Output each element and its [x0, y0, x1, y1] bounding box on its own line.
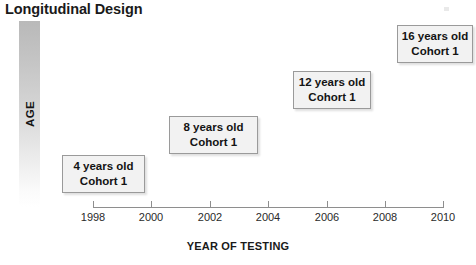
- x-axis-tick: [443, 201, 444, 208]
- page-title: Longitudinal Design: [5, 1, 142, 17]
- x-axis-tick-label: 2002: [198, 211, 222, 223]
- cohort-box-cohort-label: Cohort 1: [80, 174, 127, 188]
- x-axis-tick-label: 2000: [139, 211, 163, 223]
- x-axis-tick-label: 2004: [256, 211, 280, 223]
- x-axis-tick: [151, 201, 152, 208]
- x-axis-tick: [210, 201, 211, 208]
- scan-artifact: [444, 7, 449, 11]
- x-axis-title: YEAR OF TESTING: [0, 240, 476, 252]
- x-axis-tick: [93, 201, 94, 208]
- x-axis-tick-label: 2006: [315, 211, 339, 223]
- x-axis-tick-label: 2010: [431, 211, 455, 223]
- x-axis-tick: [327, 201, 328, 208]
- cohort-box-age-label: 12 years old: [299, 75, 365, 89]
- cohort-box-age-label: 4 years old: [73, 159, 133, 173]
- cohort-box-cohort-label: Cohort 1: [411, 44, 458, 58]
- longitudinal-design-figure: Longitudinal Design AGE 4 years old Coho…: [0, 0, 476, 265]
- x-axis-tick-label: 2008: [373, 211, 397, 223]
- cohort-box-12-years: 12 years old Cohort 1: [293, 71, 371, 109]
- cohort-box-age-label: 8 years old: [183, 120, 243, 134]
- age-axis-label: AGE: [19, 21, 40, 207]
- cohort-box-8-years: 8 years old Cohort 1: [169, 116, 258, 154]
- x-axis-tick: [268, 201, 269, 208]
- age-axis-label-text: AGE: [24, 101, 36, 127]
- cohort-box-4-years: 4 years old Cohort 1: [62, 155, 145, 193]
- cohort-box-cohort-label: Cohort 1: [190, 135, 237, 149]
- x-axis-tick: [385, 201, 386, 208]
- x-axis-tick-label: 1998: [81, 211, 105, 223]
- cohort-box-16-years: 16 years old Cohort 1: [397, 25, 473, 63]
- cohort-box-age-label: 16 years old: [402, 29, 468, 43]
- cohort-box-cohort-label: Cohort 1: [308, 90, 355, 104]
